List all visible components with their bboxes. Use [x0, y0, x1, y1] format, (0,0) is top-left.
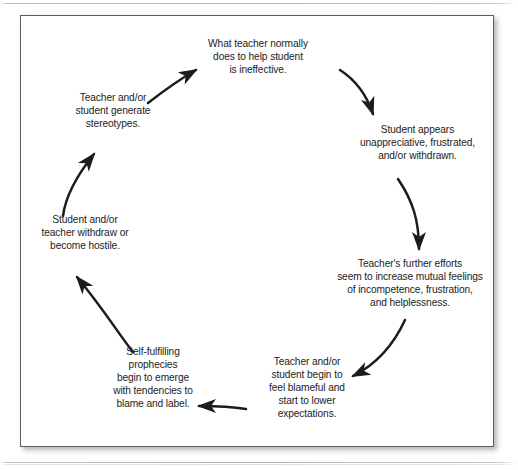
- node-line: feel blameful and: [242, 381, 372, 394]
- arrow-hostile-to-stereotypes: [63, 154, 94, 216]
- scanned-page: What teacher normally does to help stude…: [0, 0, 518, 470]
- node-line: prophecies: [88, 358, 218, 371]
- node-line: with tendencies to: [88, 384, 218, 397]
- node-line: become hostile.: [20, 239, 150, 252]
- node-line: and/or withdrawn.: [335, 149, 500, 162]
- node-line: Teacher and/or: [242, 355, 372, 368]
- cycle-diagram: What teacher normally does to help stude…: [20, 15, 494, 447]
- node-line: begin to emerge: [88, 371, 218, 384]
- node-self-fulfilling-prophecies: Self-fulfilling prophecies begin to emer…: [88, 345, 218, 410]
- node-line: Self-fulfilling: [88, 345, 218, 358]
- node-teacher-efforts: Teacher's further efforts seem to increa…: [320, 257, 500, 309]
- node-withdraw-hostile: Student and/or teacher withdraw or becom…: [20, 213, 150, 252]
- node-line: unappreciative, frustrated,: [335, 136, 500, 149]
- page-rule-bottom-secondary: [0, 464, 518, 465]
- node-line: student begin to: [242, 368, 372, 381]
- node-line: seem to increase mutual feelings: [320, 270, 500, 283]
- node-line: does to help student: [178, 50, 338, 63]
- node-ineffective: What teacher normally does to help stude…: [178, 37, 338, 76]
- node-line: Student and/or: [20, 213, 150, 226]
- node-line: Teacher's further efforts: [320, 257, 500, 270]
- node-line: and helplessness.: [320, 296, 500, 309]
- node-line: of incompetence, frustration,: [320, 283, 500, 296]
- node-line: stereotypes.: [48, 117, 178, 130]
- page-rule-top: [0, 3, 518, 4]
- arrow-ineffective-to-unappreciative: [340, 70, 373, 114]
- node-blameful: Teacher and/or student begin to feel bla…: [242, 355, 372, 420]
- node-line: What teacher normally: [178, 37, 338, 50]
- arrow-unappreciative-to-efforts: [398, 179, 419, 249]
- page-rule-bottom: [0, 462, 518, 463]
- node-line: Teacher and/or: [48, 91, 178, 104]
- node-line: student generate: [48, 104, 178, 117]
- node-line: teacher withdraw or: [20, 226, 150, 239]
- node-line: Student appears: [335, 123, 500, 136]
- node-stereotypes: Teacher and/or student generate stereoty…: [48, 91, 178, 130]
- node-line: is ineffective.: [178, 63, 338, 76]
- node-line: expectations.: [242, 407, 372, 420]
- arrow-prophecies-to-hostile: [77, 277, 133, 352]
- node-line: blame and label.: [88, 397, 218, 410]
- node-unappreciative: Student appears unappreciative, frustrat…: [335, 123, 500, 162]
- node-line: start to lower: [242, 394, 372, 407]
